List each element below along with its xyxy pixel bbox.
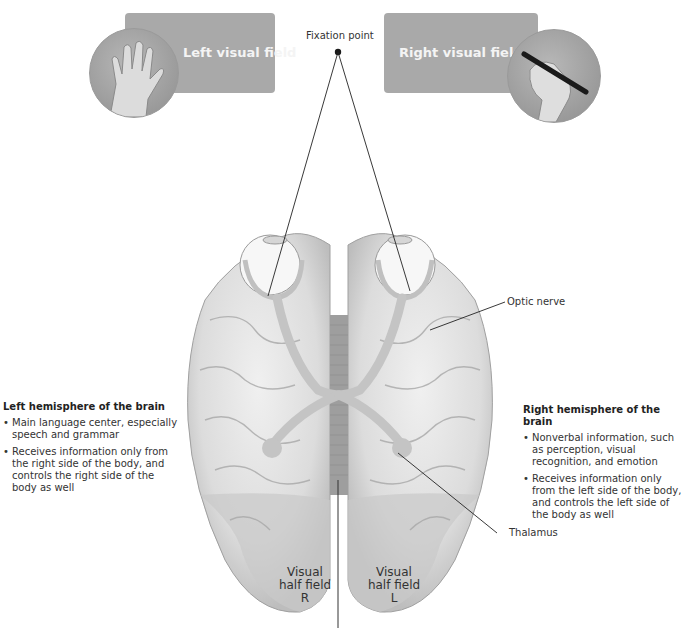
left-hemisphere-bullet: Receives information only from the right… [3,446,178,494]
right-hemisphere-bullet: Nonverbal information, such as perceptio… [523,432,683,468]
right-hemisphere-info: Right hemisphere of the brain Nonverbal … [523,404,683,526]
optic-nerve-label: Optic nerve [507,296,565,307]
left-thalamus [262,438,282,458]
brain-diagram [0,0,683,629]
visual-half-field-r-label: Visual half field R [270,566,340,605]
right-hemisphere-title: Right hemisphere of the brain [523,404,683,428]
left-hemisphere-bullet: Main language center, especially speech … [3,417,178,441]
thalamus-label: Thalamus [509,527,558,538]
right-thalamus [392,438,412,458]
right-hemisphere-bullet: Receives information only from the left … [523,473,683,521]
visual-half-field-l-label: Visual half field L [359,566,429,605]
left-hemisphere-title: Left hemisphere of the brain [3,401,178,413]
left-hemisphere-info: Left hemisphere of the brain Main langua… [3,401,178,499]
